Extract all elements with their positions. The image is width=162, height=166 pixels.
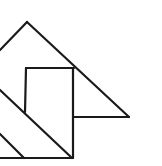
- big-triangle-left-slope: [0, 22, 27, 50]
- tangram-diagram: [0, 0, 162, 166]
- big-triangle-right-slope: [27, 22, 129, 117]
- main-diagonal: [0, 90, 72, 158]
- square-left: [25, 68, 26, 112]
- lower-diagonal: [0, 134, 24, 158]
